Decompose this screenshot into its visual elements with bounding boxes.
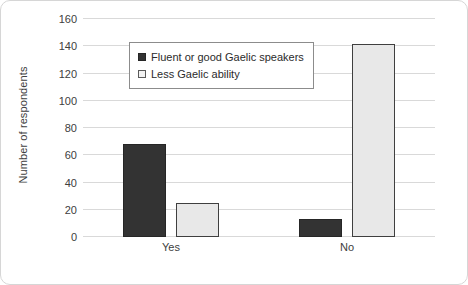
y-axis-title: Number of respondents: [9, 1, 37, 249]
legend-label: Fluent or good Gaelic speakers: [151, 51, 304, 63]
y-axis-tick-label: 20: [37, 204, 77, 216]
y-axis-tick-label: 100: [37, 95, 77, 107]
y-axis-tick-labels: 020406080100120140160: [37, 19, 77, 237]
chart-container: Number of respondents 020406080100120140…: [0, 0, 468, 285]
bar: [176, 203, 219, 237]
y-axis-tick-label: 60: [37, 149, 77, 161]
bar: [299, 219, 342, 237]
legend-swatch-icon: [138, 70, 146, 78]
legend-swatch-icon: [138, 53, 146, 61]
x-axis-tick-label: Yes: [162, 241, 180, 253]
y-axis-tick-label: 80: [37, 122, 77, 134]
y-axis-tick-label: 140: [37, 40, 77, 52]
chart-legend: Fluent or good Gaelic speakersLess Gaeli…: [129, 42, 314, 89]
y-axis-title-text: Number of respondents: [17, 66, 29, 183]
legend-item: Less Gaelic ability: [138, 65, 304, 82]
bar: [352, 44, 395, 237]
gridline: [83, 18, 435, 19]
x-axis-tick-labels: YesNo: [83, 241, 435, 261]
bar: [123, 144, 166, 237]
y-axis-tick-label: 40: [37, 177, 77, 189]
x-axis-tick-label: No: [340, 241, 354, 253]
y-axis-tick-label: 0: [37, 231, 77, 243]
y-axis-tick-label: 160: [37, 13, 77, 25]
legend-item: Fluent or good Gaelic speakers: [138, 48, 304, 65]
y-axis-tick-label: 120: [37, 68, 77, 80]
legend-label: Less Gaelic ability: [151, 68, 240, 80]
